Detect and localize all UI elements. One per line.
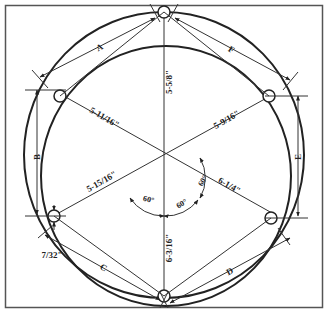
dim-upper-right-label: 5-9/16" — [212, 108, 242, 131]
chord-C-label: C — [98, 261, 109, 273]
dim-upper-left-label: 5-11/16" — [88, 105, 121, 130]
angle-lower-mid-label: 60° — [175, 197, 189, 210]
dim-top-label: 5-5/8" — [164, 70, 174, 94]
dim-bottom-label: 6-3/16" — [164, 234, 174, 263]
hole-offset-label: 7/32" — [42, 250, 63, 260]
chord-F-label: F — [227, 44, 237, 56]
bolt-pattern-diagram: 5-5/8" 5-11/16" 5-9/16" 5-15/16" 6-1/4" … — [0, 0, 328, 313]
chord-E-label: E — [293, 154, 303, 160]
angle-right-label: 60° — [196, 174, 209, 188]
chord-D-label: D — [224, 265, 235, 277]
bolt-holes — [48, 6, 277, 302]
chord-A-label: A — [94, 41, 105, 53]
dim-lower-right-label: 6-1/4" — [217, 175, 243, 196]
chord-B-label: B — [32, 154, 42, 160]
dim-lower-left-label: 5-15/16" — [85, 169, 119, 194]
angle-lower-left-label: 60° — [142, 194, 155, 206]
